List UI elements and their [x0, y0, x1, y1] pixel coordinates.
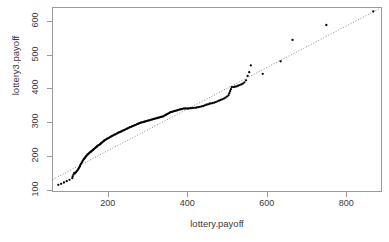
data-points	[57, 10, 374, 186]
data-point	[243, 81, 245, 83]
data-point	[291, 39, 293, 41]
x-axis-tick-label: 800	[326, 198, 366, 208]
y-axis-tick-label: 600	[0, 15, 42, 25]
data-point	[248, 71, 250, 73]
data-point	[63, 181, 65, 183]
data-point	[246, 75, 248, 77]
y-axis-tick	[47, 156, 52, 157]
data-point	[227, 94, 229, 96]
data-point	[229, 90, 231, 92]
y-axis-tick-label: 300	[0, 116, 42, 126]
y-axis-tick-label: 400	[0, 82, 42, 92]
data-point	[68, 179, 70, 181]
y-axis-tick-label: 200	[0, 150, 42, 160]
x-axis-tick-label: 200	[88, 198, 128, 208]
x-axis-tick-label: 400	[167, 198, 207, 208]
x-axis-title: lottery.payoff	[52, 218, 382, 229]
data-point	[60, 183, 62, 185]
x-axis-tick	[267, 192, 268, 197]
plot-data-layer	[52, 7, 382, 192]
x-axis-tick-label: 600	[247, 198, 287, 208]
y-axis-tick-label: 100	[0, 184, 42, 194]
y-axis-tick-label: 500	[0, 49, 42, 59]
data-point	[245, 79, 247, 81]
data-point	[228, 92, 230, 94]
y-axis-tick	[47, 21, 52, 22]
reference-line	[53, 8, 380, 179]
scatter-plot-figure: 100200300400500600 200400600800 lottery3…	[0, 0, 389, 242]
y-axis-title: lottery3.payoff	[10, 21, 21, 111]
y-axis-tick	[47, 88, 52, 89]
x-axis-tick	[187, 192, 188, 197]
y-axis-tick	[47, 55, 52, 56]
data-point	[372, 10, 374, 12]
data-point	[57, 184, 59, 186]
x-axis-tick	[108, 192, 109, 197]
y-axis-tick	[47, 122, 52, 123]
data-point	[262, 73, 264, 75]
data-point	[250, 64, 252, 66]
data-point	[279, 60, 281, 62]
x-axis-tick	[346, 192, 347, 197]
data-point	[325, 24, 327, 26]
y-axis-tick	[47, 190, 52, 191]
data-point	[66, 180, 68, 182]
data-point	[230, 88, 232, 90]
